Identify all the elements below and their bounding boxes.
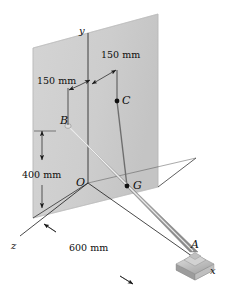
dimension-label-150mm-upper: 150 mm	[101, 50, 140, 60]
dimension-label-150mm-lower: 150 mm	[37, 76, 76, 86]
point-label-o: O	[76, 177, 85, 188]
base-support-a	[176, 253, 214, 281]
dimension-label-600mm: 600 mm	[69, 243, 108, 253]
point-label-g: G	[133, 180, 142, 191]
point-dot-g	[125, 184, 130, 189]
dimension-label-400mm: 400 mm	[22, 170, 61, 180]
axis-label-y: y	[79, 26, 85, 36]
figure-canvas: B C G A O y z x 150 mm 150 mm 400 mm 600…	[0, 0, 227, 289]
point-label-b: B	[60, 115, 68, 126]
point-dot-c	[115, 99, 120, 104]
dim-600mm	[44, 224, 133, 284]
point-label-a: A	[191, 239, 199, 250]
point-label-c: C	[122, 95, 130, 106]
axis-label-x: x	[210, 266, 216, 276]
axis-label-z: z	[11, 241, 16, 251]
